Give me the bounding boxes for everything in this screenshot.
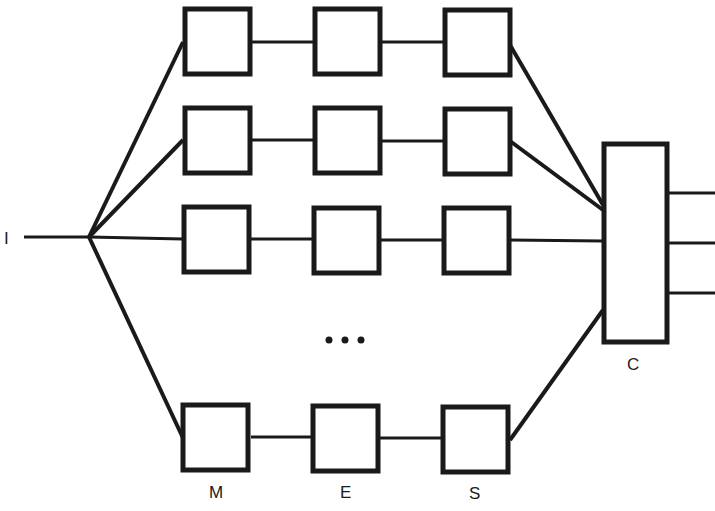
box-r2-m — [185, 108, 250, 173]
box-r1-s — [445, 10, 510, 75]
box-r4-m — [183, 405, 248, 470]
fanin-line-4 — [510, 310, 603, 440]
column-label-e: E — [340, 484, 351, 501]
ellipsis-icon — [326, 337, 365, 344]
fanin-line-3 — [510, 240, 603, 241]
box-r4-s — [443, 407, 508, 472]
box-r3-m — [184, 207, 249, 272]
box-r2-s — [445, 109, 510, 174]
fanout-line-4 — [89, 237, 183, 438]
fanout-line-3 — [89, 237, 183, 239]
column-label-m: M — [209, 484, 223, 501]
column-label-s: S — [469, 485, 480, 502]
fanin-line-2 — [510, 141, 603, 210]
fanout-line-2 — [89, 140, 183, 237]
box-r3-e — [314, 208, 379, 273]
diagram-canvas — [0, 0, 715, 511]
input-label: I — [4, 230, 9, 247]
combiner-box — [604, 144, 667, 342]
fanin-line-1 — [510, 45, 603, 205]
box-r3-s — [444, 208, 509, 273]
fanout-line-1 — [89, 42, 183, 237]
box-r4-e — [313, 406, 378, 471]
box-r2-e — [315, 108, 380, 173]
box-r1-m — [185, 9, 250, 74]
combiner-label: C — [627, 356, 639, 373]
box-r1-e — [315, 9, 380, 74]
